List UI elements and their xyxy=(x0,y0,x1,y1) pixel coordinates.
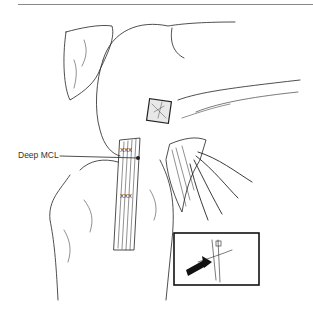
inset-box xyxy=(174,233,259,285)
svg-text:XXX: XXX xyxy=(120,193,132,199)
svg-text:XXX: XXX xyxy=(120,147,132,153)
patella xyxy=(64,25,113,100)
knee-illustration: XXX XXX Deep MCL xyxy=(0,0,313,314)
hamstring-tendon xyxy=(166,138,206,212)
deep-mcl-label: Deep MCL xyxy=(18,150,59,160)
leader-line xyxy=(60,156,138,158)
